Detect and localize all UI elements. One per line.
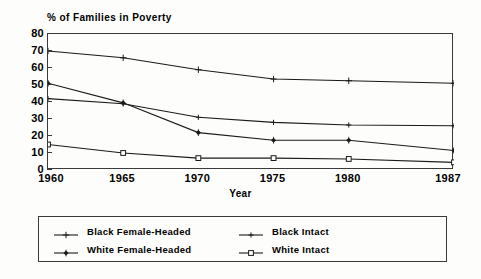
legend-item-black-female-headed: Black Female-Headed (53, 224, 191, 238)
data-point-filled-diamond (121, 99, 126, 106)
legend-item-white-intact: White Intact (238, 242, 329, 256)
y-axis-tick-mark (47, 33, 52, 34)
y-axis-tick-mark (47, 169, 52, 170)
x-axis-tick-label: 1975 (260, 172, 286, 184)
legend-label: White Intact (272, 244, 329, 255)
data-point-open-square (249, 251, 254, 256)
data-point-plus-small (271, 120, 276, 125)
series-line-1 (48, 99, 454, 126)
data-point-plus (270, 76, 276, 82)
data-point-filled-diamond (196, 129, 201, 136)
data-point-plus (120, 55, 126, 61)
legend-item-black-intact: Black Intact (238, 224, 329, 238)
series-lines (48, 34, 454, 170)
y-axis-tick-label: 80 (31, 27, 44, 39)
x-axis-title: Year (0, 188, 481, 199)
data-point-filled-diamond (271, 137, 276, 144)
y-axis-tick-label: 40 (31, 95, 44, 107)
y-axis-tick-label: 10 (31, 146, 44, 158)
y-axis-tick-label: 30 (31, 112, 44, 124)
y-axis-tick-mark (47, 101, 52, 102)
x-axis-tick-label: 1980 (335, 172, 361, 184)
x-axis-tick-label: 1970 (185, 172, 211, 184)
y-axis-tick-mark (47, 152, 52, 153)
data-point-plus (451, 80, 454, 86)
data-point-plus (63, 232, 69, 238)
data-point-plus-small (248, 232, 253, 237)
legend-item-white-female-headed: White Female-Headed (53, 242, 191, 256)
y-axis-tick-label: 20 (31, 129, 44, 141)
y-axis-tick-mark (47, 67, 52, 68)
series-line-0 (48, 51, 454, 83)
data-point-open-square (121, 151, 126, 156)
y-axis-tick-label: 60 (31, 61, 44, 73)
y-axis-tick-mark (47, 50, 52, 51)
legend-marker-filled-diamond-icon (53, 244, 79, 254)
legend-marker-plus-small-icon (238, 226, 264, 236)
legend-label: White Female-Headed (87, 244, 191, 255)
legend-label: Black Female-Headed (87, 226, 191, 237)
data-point-filled-diamond (451, 147, 454, 154)
data-point-plus (48, 48, 51, 54)
y-axis-tick-mark (47, 135, 52, 136)
data-point-plus-small (346, 122, 351, 127)
x-axis-tick-label: 1960 (38, 172, 64, 184)
y-axis-tick-label: 50 (31, 78, 44, 90)
chart-title: % of Families in Poverty (47, 12, 172, 23)
data-point-plus-small (196, 115, 201, 120)
legend-marker-open-square-icon (238, 244, 264, 254)
series-line-2 (48, 83, 454, 150)
series-line-3 (48, 145, 454, 163)
data-point-filled-diamond (346, 137, 351, 144)
data-point-open-square (346, 157, 351, 162)
legend: Black Female-Headed Black Intact White F… (38, 216, 447, 262)
data-point-open-square (452, 160, 454, 165)
data-point-open-square (196, 156, 201, 161)
chart-root: % of Families in Poverty 010203040506070… (0, 0, 481, 279)
plot-area (47, 33, 453, 169)
legend-marker-plus-icon (53, 226, 79, 236)
x-axis-ticklabels: 196019651970197519801987 (47, 172, 453, 188)
data-point-open-square (271, 156, 276, 161)
data-point-open-square (48, 142, 50, 147)
data-point-plus (195, 67, 201, 73)
data-point-plus-small (451, 123, 454, 128)
data-point-plus (346, 78, 352, 84)
y-axis-tick-mark (47, 118, 52, 119)
x-axis-tick-label: 1965 (109, 172, 135, 184)
x-axis-tick-label: 1987 (435, 172, 461, 184)
y-axis-tick-mark (47, 84, 52, 85)
y-axis-ticklabels: 01020304050607080 (16, 33, 44, 169)
y-axis-tick-label: 70 (31, 44, 44, 56)
data-point-filled-diamond (63, 250, 68, 257)
legend-label: Black Intact (272, 226, 329, 237)
